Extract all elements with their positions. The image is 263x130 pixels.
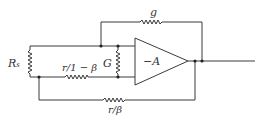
label-r-beta: r/β [108,105,122,115]
circuit-diagram [0,0,263,130]
label-G: G [103,58,112,69]
label-rs-sub: s [16,61,20,69]
source-resistor-rs [28,46,32,77]
label-r-1-beta: r/1 − β [62,63,97,73]
label-minus-A: −A [143,56,160,67]
label-g: g [150,7,157,18]
label-rs: Rs [8,58,20,69]
shunt-conductance-g [116,46,120,77]
